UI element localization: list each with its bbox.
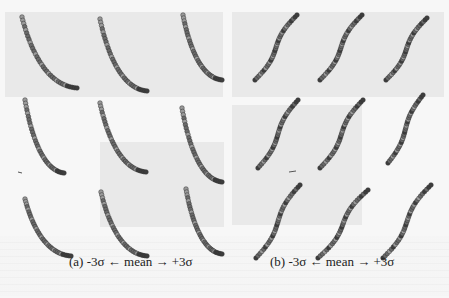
shape-curve-b-3 (384, 16, 430, 83)
shape-curve-a-3 (181, 13, 225, 83)
stray-mark (289, 171, 296, 172)
shape-curve-a-1 (20, 15, 80, 91)
shape-curve-b-4 (256, 98, 301, 171)
shape-curve-a-2 (98, 17, 150, 94)
stray-mark (18, 172, 22, 173)
shape-curve-a-4 (23, 98, 67, 176)
shape-curve-a-6 (180, 106, 225, 185)
shape-curve-b-5 (318, 98, 366, 171)
shape-curve-b-9 (381, 183, 434, 261)
shape-curve-b-6 (386, 93, 426, 166)
shape-curve-b-2 (318, 13, 365, 83)
shape-curve-a-5 (98, 101, 149, 175)
caption-panel-b: (b) -3σ ← mean → +3σ (270, 254, 394, 270)
caption-panel-a: (a) -3σ ← mean → +3σ (69, 254, 193, 270)
shape-curve-b-1 (253, 13, 300, 83)
shape-curve-a-7 (23, 197, 74, 259)
shape-curve-b-8 (316, 188, 371, 261)
shape-curve-b-7 (254, 183, 303, 261)
shape-curve-a-8 (99, 190, 150, 259)
shape-curve-a-9 (184, 187, 225, 257)
